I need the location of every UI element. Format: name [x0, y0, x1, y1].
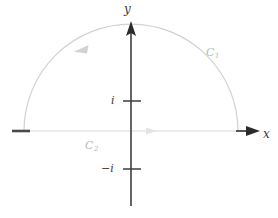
- contour-label-c2-text: C: [85, 139, 93, 152]
- contour-label-c1: C1: [206, 46, 219, 59]
- contour-label-c2: C2: [85, 139, 98, 152]
- tick-label-minus-i: −i: [101, 162, 114, 175]
- right-arrow-icon: [246, 126, 260, 136]
- contour-diagram-svg: [0, 0, 278, 218]
- tick-label-i: i: [111, 94, 115, 107]
- contour-label-c1-text: C: [206, 46, 214, 59]
- segment-direction-arrow-icon: [146, 127, 157, 134]
- arc-direction-arrow-icon: [74, 45, 89, 54]
- x-axis-label: x: [263, 127, 270, 141]
- contour-figure: y x i −i C1 C2: [0, 0, 278, 218]
- contour-label-c1-subscript: 1: [215, 52, 219, 60]
- y-axis-label: y: [124, 2, 131, 16]
- contour-label-c2-subscript: 2: [94, 145, 98, 153]
